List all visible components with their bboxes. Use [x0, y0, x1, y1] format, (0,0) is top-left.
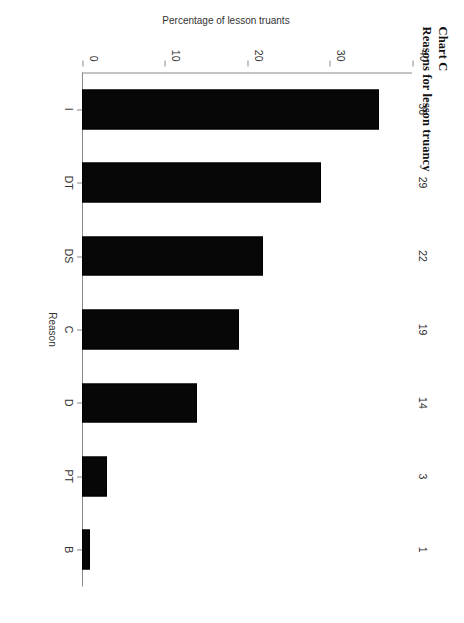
bar-value-label: 14 — [417, 397, 429, 409]
category-tick-mark — [77, 109, 82, 110]
bar-slot: 22 — [82, 219, 412, 292]
axes: 362922191431 — [82, 72, 412, 586]
category-tick: DS — [60, 219, 82, 292]
bar[interactable]: 3 — [82, 456, 107, 496]
category-tick-mark — [77, 256, 82, 257]
value-axis-ticks: 010203040 — [82, 40, 412, 66]
value-tick-mark — [330, 60, 331, 66]
category-tick-mark — [77, 329, 82, 330]
plot-area: Percentage of lesson truants 010203040 3… — [40, 26, 412, 586]
bar[interactable]: 36 — [82, 89, 379, 129]
bar-value-label: 1 — [417, 546, 429, 552]
bar-slot: 3 — [82, 439, 412, 512]
category-tick-label: DS — [63, 219, 75, 292]
bar-slot: 36 — [82, 72, 412, 145]
bar[interactable]: 22 — [82, 236, 264, 276]
bar-value-label: 19 — [417, 323, 429, 335]
bar[interactable]: 1 — [82, 529, 90, 569]
value-tick-mark — [413, 60, 414, 66]
value-tick-label: 10 — [171, 49, 183, 61]
value-tick-label: 0 — [88, 55, 100, 61]
value-tick-label: 30 — [336, 49, 348, 61]
category-tick: D — [60, 366, 82, 439]
bar-slot: 29 — [82, 145, 412, 218]
chart-title: Reasons for lesson truancy — [419, 26, 435, 171]
category-tick-label: B — [63, 513, 75, 586]
category-tick-mark — [77, 402, 82, 403]
category-tick-label: D — [63, 366, 75, 439]
category-tick-mark — [77, 182, 82, 183]
chart-label: Chart C — [434, 26, 450, 171]
bar-value-label: 36 — [417, 103, 429, 115]
bar[interactable]: 14 — [82, 383, 198, 423]
category-tick-label: PT — [63, 439, 75, 512]
value-tick-label: 20 — [253, 49, 265, 61]
value-tick-mark — [83, 60, 84, 66]
value-tick-label: 40 — [418, 49, 430, 61]
category-tick-mark — [77, 476, 82, 477]
category-tick-label: I — [63, 72, 75, 145]
bar-value-label: 29 — [417, 176, 429, 188]
bar[interactable]: 29 — [82, 162, 321, 202]
bar-value-label: 3 — [417, 473, 429, 479]
bar-slot: 1 — [82, 513, 412, 586]
value-axis-title: Percentage of lesson truants — [40, 14, 412, 30]
bar-value-label: 22 — [417, 250, 429, 262]
category-tick: DT — [60, 145, 82, 218]
bar-series: 362922191431 — [82, 72, 412, 586]
category-axis-title: Reason — [47, 72, 58, 586]
category-tick: B — [60, 513, 82, 586]
category-tick-label: C — [63, 292, 75, 365]
chart-title-block: Chart C Reasons for lesson truancy — [419, 26, 451, 171]
category-tick: PT — [60, 439, 82, 512]
bar-slot: 19 — [82, 292, 412, 365]
value-tick-mark — [248, 60, 249, 66]
category-axis-ticks: IDTDSCDPTB — [60, 72, 82, 586]
bar[interactable]: 19 — [82, 309, 239, 349]
category-tick-label: DT — [63, 145, 75, 218]
value-tick-mark — [165, 60, 166, 66]
bar-slot: 14 — [82, 366, 412, 439]
category-tick-mark — [77, 549, 82, 550]
category-tick: I — [60, 72, 82, 145]
figure-canvas: Chart C Reasons for lesson truancy Perce… — [0, 0, 464, 623]
category-tick: C — [60, 292, 82, 365]
